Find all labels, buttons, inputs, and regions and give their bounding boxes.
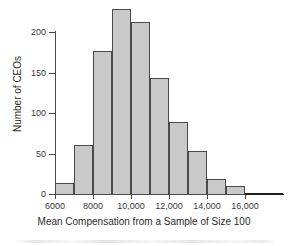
histogram-figure: 050100150200 6000800010,00012,00014,0001…	[0, 0, 288, 246]
histogram-bar	[188, 151, 207, 195]
histogram-bar	[150, 78, 169, 195]
y-axis-title: Number of CEOs	[12, 24, 24, 164]
y-tick	[49, 113, 55, 114]
scan-artifact	[14, 240, 276, 243]
histogram-bar	[207, 179, 226, 195]
y-tick	[49, 73, 55, 74]
x-tick-label: 6000	[45, 202, 65, 211]
x-tick-label: 10,000	[117, 202, 145, 211]
histogram-bar	[112, 9, 131, 195]
histogram-bar	[55, 183, 74, 195]
histogram-bar	[245, 193, 283, 195]
histogram-bar	[74, 145, 93, 195]
y-tick-label: 0	[41, 190, 46, 199]
plot-area: 050100150200 6000800010,00012,00014,0001…	[0, 0, 288, 246]
x-tick-label: 12,000	[155, 202, 183, 211]
y-tick-label: 150	[31, 69, 46, 78]
histogram-bar	[131, 22, 150, 195]
y-tick	[49, 32, 55, 33]
y-tick-label: 200	[31, 28, 46, 37]
histogram-bar	[93, 51, 112, 195]
x-tick-label: 16,000	[231, 202, 259, 211]
y-tick-label: 50	[36, 150, 46, 159]
x-tick-label: 8000	[83, 202, 103, 211]
y-tick-label: 100	[31, 109, 46, 118]
x-axis-title: Mean Compensation from a Sample of Size …	[0, 216, 288, 228]
histogram-bar	[169, 122, 188, 195]
y-axis-line	[55, 31, 56, 195]
histogram-bar	[226, 186, 245, 195]
x-tick-label: 14,000	[193, 202, 221, 211]
y-tick	[49, 154, 55, 155]
